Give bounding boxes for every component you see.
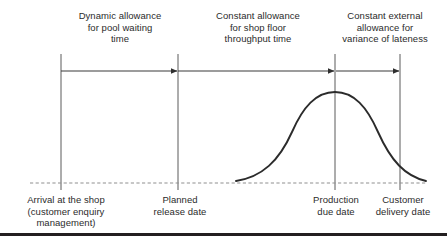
arrival-at-shop-label: Arrival at the shop (customer enquiry ma… — [0, 194, 132, 229]
customer-delivery-date-label-line-2: delivery date — [361, 206, 445, 218]
figure-bottom-rule — [0, 233, 447, 236]
arrival-at-shop-label-line-2: (customer enquiry — [0, 206, 132, 218]
shop-floor-allowance-label-line-1: Constant allowance — [188, 10, 328, 22]
arrival-at-shop-label-line-1: Arrival at the shop — [0, 194, 132, 206]
shop-floor-allowance-label-line-2: for shop floor — [188, 22, 328, 34]
planned-release-date-label-line-1: Planned — [130, 194, 230, 206]
milestone-lines — [61, 54, 400, 190]
customer-delivery-date-label-line-1: Customer — [361, 194, 445, 206]
planned-release-date-label: Planned release date — [130, 194, 230, 217]
external-allowance-label-line-1: Constant external — [322, 10, 447, 22]
external-allowance-label-line-3: variance of lateness — [322, 33, 447, 45]
lead-time-allowance-diagram: Dynamic allowance for pool waiting time … — [0, 0, 447, 242]
shop-floor-allowance-label-line-3: throughput time — [188, 33, 328, 45]
external-allowance-label: Constant external allowance for variance… — [322, 10, 447, 45]
customer-delivery-date-label: Customer delivery date — [361, 194, 445, 217]
planned-release-date-label-line-2: release date — [130, 206, 230, 218]
arrival-at-shop-label-line-3: management) — [0, 217, 132, 229]
shop-floor-allowance-label: Constant allowance for shop floor throug… — [188, 10, 328, 45]
external-allowance-label-line-2: allowance for — [322, 22, 447, 34]
lateness-distribution-curve — [236, 92, 426, 181]
